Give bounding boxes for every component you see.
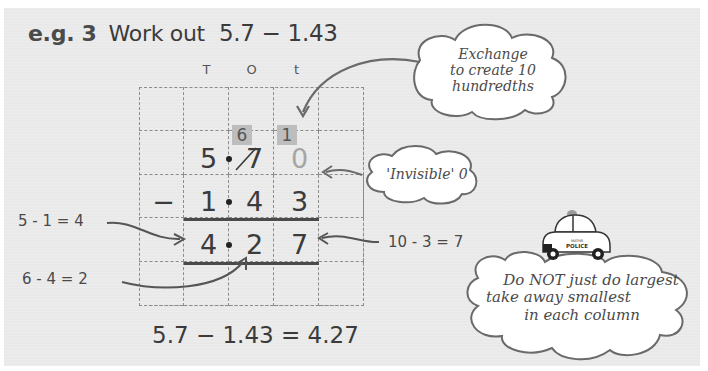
annotation-units-step: 5 - 1 = 4	[18, 212, 84, 230]
strike-through-icon	[236, 148, 256, 170]
arrow-exchange-icon	[303, 59, 420, 112]
arrow-tenths-step-icon	[122, 262, 243, 287]
cloud-invisible-zero-text: 'Invisible' 0	[380, 166, 474, 182]
cloud-exchange-line: hundredths	[432, 78, 554, 94]
annotation-tenths-step: 6 - 4 = 2	[22, 270, 88, 288]
svg-text:POLICE: POLICE	[566, 243, 588, 249]
arrow-invisible-zero-icon	[326, 170, 362, 175]
annotation-hundredths-step: 10 - 3 = 7	[388, 233, 463, 251]
arrow-units-step-icon	[107, 223, 180, 239]
police-car-icon: MATHS POLICE	[543, 210, 610, 260]
final-answer: 5.7 − 1.43 = 4.27	[152, 322, 359, 348]
cloud-warning-line: Do NOT just do largest	[482, 272, 682, 289]
cloud-warning-line: in each column	[482, 307, 682, 324]
arrow-hundredths-step-icon	[322, 236, 379, 242]
cloud-exchange-line: Exchange	[432, 46, 554, 62]
cloud-exchange-line: to create 10	[432, 62, 554, 78]
cloud-warning-text: Do NOT just do largest take away smalles…	[482, 272, 682, 324]
cloud-warning-line: take away smallest	[482, 289, 682, 306]
cloud-exchange-text: Exchange to create 10 hundredths	[432, 46, 554, 94]
